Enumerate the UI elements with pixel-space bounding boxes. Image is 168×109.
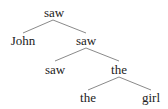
edge-saw-john <box>23 20 53 33</box>
edge-the-girl <box>119 77 151 90</box>
edge-saw-saw-child <box>55 48 86 61</box>
edge-the-the <box>88 77 119 90</box>
node-saw-3: saw <box>45 62 66 77</box>
node-girl: girl <box>142 90 160 105</box>
tree-diagram: saw John saw saw the the girl <box>0 0 168 109</box>
node-the-2: the <box>80 90 96 105</box>
node-the-1: the <box>111 62 127 77</box>
edge-saw-the <box>86 48 119 61</box>
node-root-saw: saw <box>44 5 65 20</box>
node-john: John <box>11 33 36 48</box>
edge-saw-saw <box>53 20 86 33</box>
node-saw-2: saw <box>76 33 97 48</box>
